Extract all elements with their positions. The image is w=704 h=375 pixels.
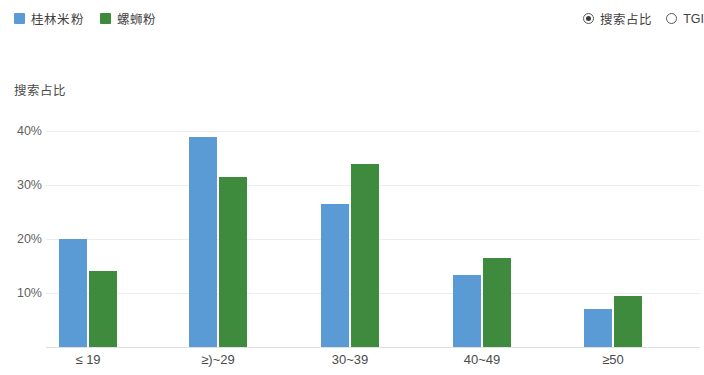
bar-1[interactable] <box>351 164 379 347</box>
x-axis-tick-label: ≥50 <box>553 352 673 367</box>
bar-0[interactable] <box>453 275 481 347</box>
bar-series-layer <box>0 0 700 347</box>
bar-0[interactable] <box>189 137 217 347</box>
x-axis-tick-label: 40~49 <box>422 352 542 367</box>
bar-1[interactable] <box>89 271 117 347</box>
x-axis-tick-label: 30~39 <box>290 352 410 367</box>
x-axis-tick-label: ≥)~29 <box>158 352 278 367</box>
bar-0[interactable] <box>584 309 612 347</box>
bar-1[interactable] <box>483 258 511 347</box>
bar-0[interactable] <box>321 204 349 347</box>
x-axis-baseline <box>46 347 700 348</box>
x-axis-tick-label: ≤ 19 <box>28 352 148 367</box>
bar-1[interactable] <box>219 177 247 347</box>
bar-0[interactable] <box>59 239 87 347</box>
bar-1[interactable] <box>614 296 642 347</box>
